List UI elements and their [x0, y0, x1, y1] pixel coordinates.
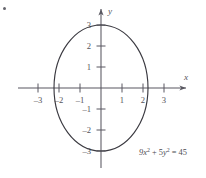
y-tick-label-3: 3	[87, 20, 91, 30]
y-tick-label--1: –1	[81, 104, 91, 114]
y-tick-label-2: 2	[87, 41, 91, 51]
equation-annotation: 9x2 + 5y2 = 45	[139, 147, 187, 157]
x-axis	[18, 85, 186, 90]
y-axis-label: y	[107, 6, 113, 16]
y-tick-label--2: –2	[81, 125, 91, 135]
ellipse-graph-figure: –3 –2 –1 1 2 3 3 2 1 –1 –2 –3 x y 9x2 + …	[0, 0, 206, 178]
equation-plus-sign: +	[150, 148, 159, 157]
x-tick-label-3: 3	[162, 95, 166, 105]
equation-right-side: 45	[179, 148, 187, 157]
x-tick-label--3: –3	[33, 95, 43, 105]
y-tick-label-1: 1	[87, 62, 91, 72]
coordinate-plane-svg: –3 –2 –1 1 2 3 3 2 1 –1 –2 –3 x y 9x2 + …	[0, 0, 206, 178]
x-tick-label-1: 1	[120, 95, 124, 105]
corner-artifact-dot	[3, 7, 6, 10]
x-tick-label-2: 2	[141, 95, 145, 105]
x-axis-label: x	[183, 72, 189, 82]
equation-equals-sign: =	[170, 148, 179, 157]
